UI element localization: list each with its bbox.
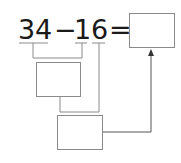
digit-6: 6 <box>91 15 108 45</box>
answer-box[interactable] <box>129 13 175 48</box>
digit-3: 3 <box>18 15 35 45</box>
digit-1: 1 <box>74 15 91 45</box>
step2-box[interactable] <box>57 115 103 150</box>
digit-4: 4 <box>35 15 52 45</box>
step1-box[interactable] <box>36 62 81 97</box>
